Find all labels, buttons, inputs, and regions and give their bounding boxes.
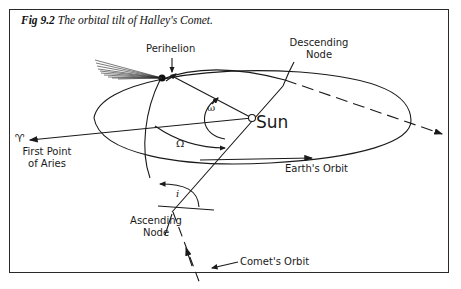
longitude-of-ascending-node-symbol: Ω (176, 138, 184, 150)
earths-orbit-label: Earth's Orbit (285, 163, 348, 175)
sun-marker (249, 115, 256, 122)
aries-line (30, 118, 252, 140)
descending-node-label: Descending Node (284, 37, 354, 61)
comets-orbit-label: Comet's Orbit (240, 256, 309, 268)
sun-label: Sun (256, 113, 288, 131)
line-of-nodes (172, 72, 289, 212)
perihelion-label: Perihelion (146, 43, 195, 55)
orbit-diagram (0, 0, 461, 289)
argument-of-perihelion-symbol: ω (207, 102, 215, 114)
ascending-node-label: Ascending Node (124, 215, 188, 239)
comet-orbit-path (145, 70, 442, 284)
aries-symbol: ♈ (15, 133, 25, 145)
inclination-symbol: i (176, 188, 179, 200)
comet-icon (95, 60, 166, 82)
first-point-of-aries-label: First Point of Aries (14, 146, 80, 170)
